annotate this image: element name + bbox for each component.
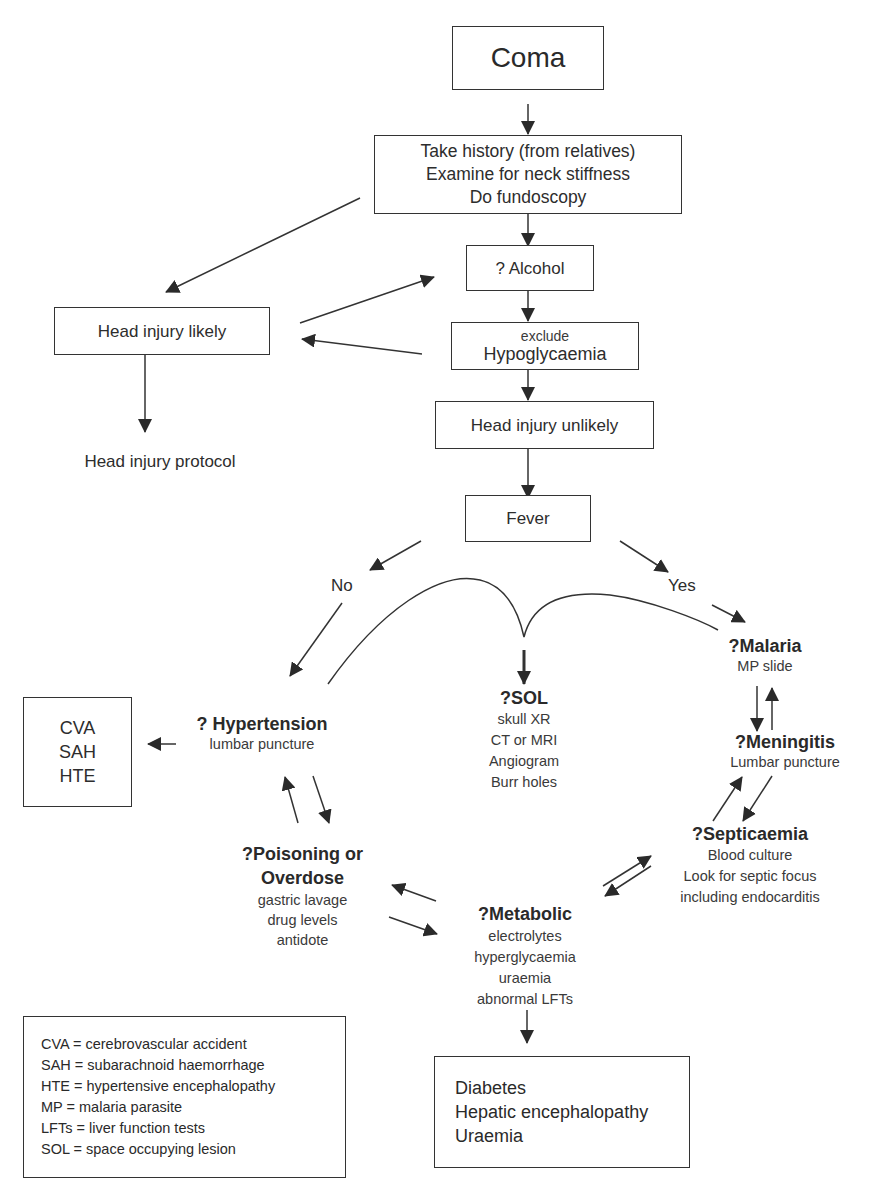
arrow-metabolic-to-poisoning — [392, 885, 436, 901]
head-injury-likely-label: Head injury likely — [98, 321, 227, 342]
fever-label: Fever — [506, 508, 549, 529]
cva-line: HTE — [60, 764, 96, 788]
outcome-line: Hepatic encephalopathy — [455, 1100, 648, 1124]
outcome-box: Diabetes Hepatic encephalopathy Uraemia — [434, 1056, 690, 1168]
arrow-hypertension-to-poisoning — [313, 776, 329, 823]
arrow-fever-to-yes — [620, 541, 668, 572]
hypoglycaemia-small: exclude — [521, 328, 569, 344]
legend-item: CVA = cerebrovascular accident — [41, 1034, 247, 1055]
head-injury-protocol: Head injury protocol — [60, 451, 260, 472]
no-label: No — [331, 576, 353, 596]
cva-sah-hte-box: CVA SAH HTE — [23, 697, 132, 807]
head-injury-unlikely-label: Head injury unlikely — [471, 415, 618, 436]
legend-item: LFTs = liver function tests — [41, 1118, 205, 1139]
poisoning-title: ?Poisoning or — [225, 842, 380, 866]
hypoglycaemia-box: exclude Hypoglycaemia — [451, 322, 639, 370]
head-injury-likely-box: Head injury likely — [54, 307, 270, 355]
cva-line: CVA — [60, 716, 96, 740]
poisoning-title: Overdose — [225, 866, 380, 890]
meningitis-title: ?Meningitis — [710, 731, 860, 753]
sol-line: CT or MRI — [464, 730, 584, 751]
sol-line: Angiogram — [464, 751, 584, 772]
legend-item: MP = malaria parasite — [41, 1097, 182, 1118]
metabolic-line: abnormal LFTs — [450, 989, 600, 1010]
arrow-yes-to-malaria — [712, 605, 745, 622]
history-line: Do fundoscopy — [470, 186, 587, 209]
arrow-fever-to-no — [370, 541, 421, 570]
alcohol-label: ? Alcohol — [496, 258, 565, 279]
meningitis-line: Lumbar puncture — [710, 753, 860, 772]
fever-box: Fever — [465, 495, 591, 542]
sol-node: ?SOL skull XR CT or MRI Angiogram Burr h… — [464, 687, 584, 793]
metabolic-line: uraemia — [450, 968, 600, 989]
sol-line: skull XR — [464, 709, 584, 730]
hypertension-line: lumbar puncture — [172, 735, 352, 754]
hypoglycaemia-label: Hypoglycaemia — [483, 344, 606, 365]
malaria-title: ?Malaria — [700, 635, 830, 657]
poisoning-line: gastric lavage — [225, 890, 380, 910]
legend-item: SAH = subarachnoid haemorrhage — [41, 1055, 265, 1076]
history-line: Examine for neck stiffness — [426, 163, 630, 186]
arrow-hypoglycaemia-to-head-injury — [302, 339, 422, 354]
malaria-line: MP slide — [700, 657, 830, 676]
metabolic-node: ?Metabolic electrolytes hyperglycaemia u… — [450, 902, 600, 1010]
poisoning-line: antidote — [225, 930, 380, 950]
septicaemia-node: ?Septicaemia Blood culture Look for sept… — [660, 823, 840, 908]
poisoning-node: ?Poisoning or Overdose gastric lavage dr… — [225, 842, 380, 950]
arrow-poisoning-to-metabolic — [389, 917, 437, 934]
head-injury-unlikely-box: Head injury unlikely — [435, 401, 654, 449]
meningitis-node: ?Meningitis Lumbar puncture — [710, 731, 860, 772]
septicaemia-line: Blood culture — [660, 845, 840, 866]
arrow-septicaemia-to-meningitis — [713, 777, 742, 821]
sol-line: Burr holes — [464, 772, 584, 793]
legend-item: HTE = hypertensive encephalopathy — [41, 1076, 275, 1097]
legend-item: SOL = space occupying lesion — [41, 1139, 236, 1160]
metabolic-line: electrolytes — [450, 926, 600, 947]
septicaemia-title: ?Septicaemia — [660, 823, 840, 845]
history-line: Take history (from relatives) — [421, 140, 636, 163]
metabolic-title: ?Metabolic — [450, 902, 600, 926]
malaria-node: ?Malaria MP slide — [700, 635, 830, 676]
arrow-poisoning-to-hypertension — [285, 777, 298, 823]
coma-label: Coma — [491, 42, 566, 74]
septicaemia-line: Look for septic focus — [660, 866, 840, 887]
history-box: Take history (from relatives) Examine fo… — [374, 135, 682, 214]
alcohol-box: ? Alcohol — [466, 245, 594, 291]
poisoning-line: drug levels — [225, 910, 380, 930]
outcome-line: Diabetes — [455, 1076, 526, 1100]
yes-label: Yes — [668, 576, 696, 596]
hypertension-node: ? Hypertension lumbar puncture — [172, 713, 352, 754]
arrow-history-to-head-injury-likely — [166, 198, 360, 292]
sol-title: ?SOL — [464, 687, 584, 709]
arrow-meningitis-to-septicaemia — [743, 776, 772, 821]
metabolic-line: hyperglycaemia — [450, 947, 600, 968]
septicaemia-line: including endocarditis — [660, 887, 840, 908]
coma-box: Coma — [452, 26, 604, 90]
arrow-no-to-hypertension — [290, 603, 342, 676]
cva-line: SAH — [59, 740, 96, 764]
head-injury-protocol-label: Head injury protocol — [84, 452, 235, 471]
outcome-line: Uraemia — [455, 1124, 523, 1148]
hypertension-title: ? Hypertension — [172, 713, 352, 735]
arrow-head-injury-to-alcohol — [300, 277, 434, 323]
legend-box: CVA = cerebrovascular accident SAH = sub… — [23, 1016, 346, 1178]
